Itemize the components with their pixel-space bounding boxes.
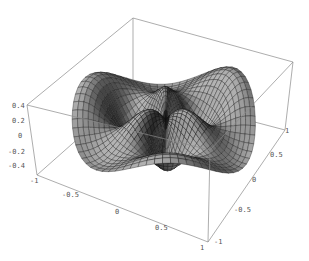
z-axis-tick-label: -0.2	[8, 149, 25, 156]
surface-mesh	[72, 67, 255, 174]
x-axis-tick-label: 0.5	[155, 225, 168, 232]
y-axis-tick-label: -1	[214, 239, 222, 246]
z-axis-tick-label: -0.4	[8, 163, 25, 170]
y-axis-tick-label: 0.5	[270, 152, 283, 159]
surface-plot-canvas	[0, 0, 309, 261]
x-axis-tick-label: 0	[115, 209, 119, 216]
z-axis-tick-label: 0	[18, 133, 22, 140]
y-axis-tick-label: -0.5	[234, 207, 251, 214]
y-axis-tick-label: 0	[252, 177, 256, 184]
x-axis-tick-label: 1	[200, 245, 204, 252]
z-axis-tick-label: 0.2	[12, 118, 25, 125]
x-axis-tick-label: -1	[30, 178, 38, 185]
y-axis-tick-label: 1	[285, 128, 289, 135]
z-axis-tick-label: 0.4	[12, 103, 25, 110]
x-axis-tick-label: -0.5	[62, 192, 79, 199]
